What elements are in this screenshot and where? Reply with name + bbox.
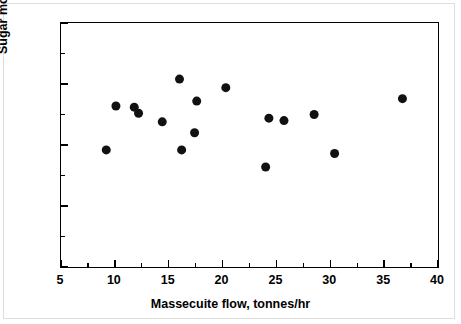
data-point <box>261 162 270 171</box>
plot-area <box>60 22 439 268</box>
data-point <box>279 116 288 125</box>
data-point <box>134 109 143 118</box>
x-tick-major <box>114 260 115 267</box>
x-tick-label: 20 <box>202 274 242 287</box>
y-tick-minor <box>61 53 65 54</box>
y-tick-minor <box>61 175 65 176</box>
x-tick-major <box>383 260 384 267</box>
data-point <box>102 145 111 154</box>
data-point <box>177 145 186 154</box>
y-tick-minor <box>61 114 65 115</box>
y-tick-major <box>61 83 68 84</box>
data-point <box>111 101 120 110</box>
y-tick-major <box>61 266 68 267</box>
x-tick-major <box>60 260 61 267</box>
x-tick-minor <box>357 263 358 267</box>
y-axis-title: Sugar moisture,% <box>0 0 10 54</box>
x-tick-minor <box>249 263 250 267</box>
x-tick-minor <box>410 263 411 267</box>
x-tick-major <box>168 260 169 267</box>
x-axis-title: Massecuite flow, tonnes/hr <box>0 297 461 311</box>
x-tick-label: 25 <box>255 274 295 287</box>
y-tick-major <box>61 22 68 23</box>
x-tick-minor <box>141 263 142 267</box>
data-point <box>158 117 167 126</box>
data-point <box>330 149 339 158</box>
x-tick-label: 40 <box>417 274 457 287</box>
x-tick-label: 30 <box>309 274 349 287</box>
x-tick-minor <box>303 263 304 267</box>
x-tick-major <box>222 260 223 267</box>
data-point <box>190 128 199 137</box>
y-tick-major <box>61 144 68 145</box>
data-points-layer <box>61 23 438 267</box>
x-tick-major <box>276 260 277 267</box>
x-tick-major <box>330 260 331 267</box>
data-point <box>192 97 201 106</box>
data-point <box>310 110 319 119</box>
data-point <box>175 75 184 84</box>
x-tick-label: 10 <box>94 274 134 287</box>
data-point <box>221 83 230 92</box>
data-point <box>398 94 407 103</box>
x-tick-label: 5 <box>40 274 80 287</box>
x-tick-minor <box>87 263 88 267</box>
x-tick-minor <box>195 263 196 267</box>
y-tick-major <box>61 205 68 206</box>
y-tick-minor <box>61 236 65 237</box>
data-point <box>264 114 273 123</box>
x-tick-label: 35 <box>363 274 403 287</box>
x-tick-label: 15 <box>148 274 188 287</box>
scatter-plot-figure: Sugar moisture,% Massecuite flow, tonnes… <box>0 0 461 324</box>
x-tick-major <box>437 260 438 267</box>
